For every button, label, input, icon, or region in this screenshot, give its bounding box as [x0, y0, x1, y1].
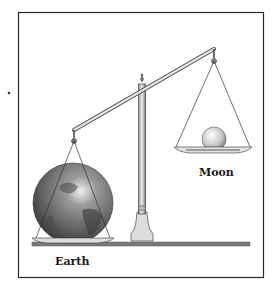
earth-globe [33, 163, 113, 243]
balance-illustration [0, 0, 274, 290]
stray-dot [8, 92, 11, 95]
earth-label: Earth [55, 255, 89, 268]
moon-label: Moon [199, 166, 234, 179]
